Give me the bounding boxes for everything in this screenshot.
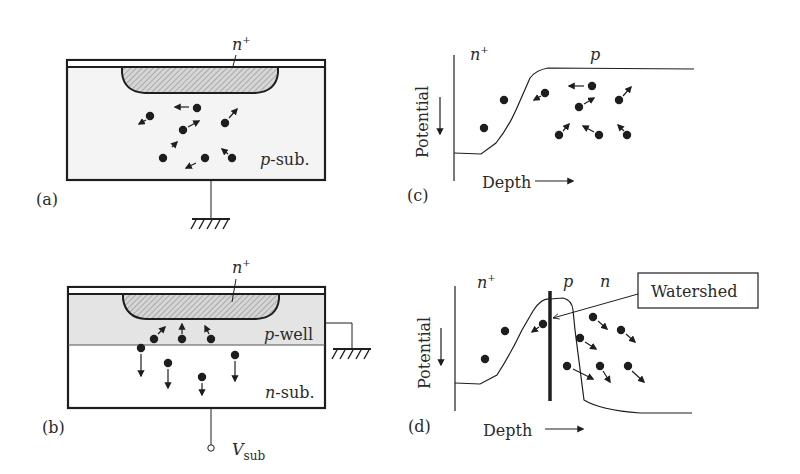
region-p-label: p: [590, 45, 600, 64]
y-axis-label: Potential: [415, 317, 434, 389]
region-n-label: n: [600, 272, 610, 291]
p-sub-label: p-sub.: [260, 150, 310, 169]
panel-c-label: (c): [407, 186, 428, 205]
nplus-region-b: [123, 294, 279, 319]
panel-d: Potential Depth n+ p n Watershed (d): [408, 272, 758, 440]
nplus-region: [122, 67, 278, 93]
n-sub-label: n-sub.: [265, 383, 315, 402]
panel-a: n+ p-sub. (a): [36, 34, 325, 229]
p-well-label: p-well: [264, 325, 313, 344]
electrons-d: [481, 313, 644, 382]
panel-b: n+ p-well n-sub.: [42, 257, 371, 463]
panel-b-label: (b): [42, 418, 65, 437]
watershed-callout-label: Watershed: [651, 282, 737, 301]
vsub-label: Vsub: [232, 440, 265, 463]
ground-icon: [191, 180, 230, 229]
oxide-layer-b: [69, 288, 324, 293]
panel-d-label: (d): [408, 417, 431, 436]
nplus-label-b: n+: [232, 257, 251, 277]
x-axis-label: Depth: [482, 173, 531, 192]
terminal-icon: [208, 445, 214, 451]
panel-a-label: (a): [36, 190, 58, 209]
potential-curve: [454, 68, 694, 154]
figure: n+ p-sub. (a): [0, 0, 800, 474]
nplus-label: n+: [232, 34, 251, 54]
y-axis-label: Potential: [413, 86, 432, 158]
oxide-layer: [68, 61, 324, 66]
x-axis-label: Depth: [483, 421, 532, 440]
region-p-label: p: [563, 272, 573, 291]
region-nplus-label: n+: [477, 272, 496, 292]
panel-c: Potential Depth n+ p (c): [407, 44, 694, 205]
vsub-terminal: Vsub: [208, 408, 266, 463]
potential-curve: [455, 298, 692, 413]
electrons-c: [480, 82, 631, 138]
region-nplus-label: n+: [470, 44, 489, 64]
ground-icon: [325, 323, 371, 359]
